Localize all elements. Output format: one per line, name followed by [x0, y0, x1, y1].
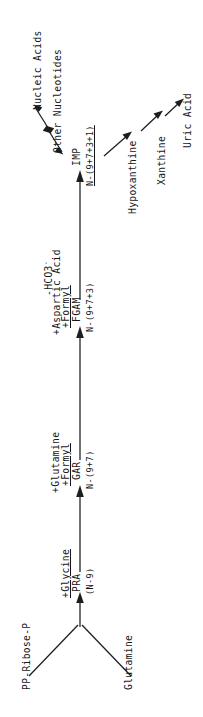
node-other-nucleotides: Other Nucleotides [53, 49, 63, 153]
node-gar-nitrogen-count: N-(9+7) [86, 450, 95, 489]
reagent-bicarbonate-charge: - [42, 261, 50, 266]
node-pp-ribose-p: PP-Ribose-P [22, 623, 32, 690]
node-pra-nitrogen-count: (N-9) [86, 567, 95, 595]
reagent-glutamine-step2: +Glutamine [51, 432, 61, 493]
arrow-pp-ribose-p-to-pra [29, 625, 78, 676]
node-fgam: FGAM [72, 297, 82, 322]
arrow-pra-to-gar [76, 485, 84, 572]
arrow-gar-to-fgam [76, 326, 84, 460]
arrow-fgam-to-imp [76, 170, 84, 300]
reagent-bicarbonate-text: -HCO3 [43, 265, 54, 296]
node-xanthine: Xanthine [157, 136, 167, 185]
node-nucleic-acids: Nucleic Acids [33, 30, 43, 110]
node-fgam-nitrogen-count: N-(9+7+3) [86, 282, 95, 332]
arrow-hypoxanthine-to-xanthine [141, 111, 163, 132]
node-hypoxanthine: Hypoxanthine [128, 140, 138, 214]
pathway-diagram-canvas: PP-Ribose-P Glutamine PRA (N-9) +Glycine… [0, 0, 203, 717]
node-glutamine: Glutamine [124, 635, 134, 690]
node-gar: GAR [72, 462, 82, 480]
node-imp-nitrogen-count: N-(9+7+3+1) [86, 125, 95, 186]
node-imp: IMP [72, 148, 82, 166]
reagent-bicarbonate: -HCO3- [43, 261, 54, 296]
arrow-to-pra-head [76, 592, 84, 627]
reagent-glycine: +Glycine [61, 549, 71, 598]
node-pra: PRA [72, 574, 82, 592]
reagent-formyl-step2: +Formyl [61, 443, 71, 486]
reagent-formyl-step3: +Formyl [61, 285, 71, 328]
node-uric-acid: Uric Acid [183, 93, 193, 148]
pathway-arrow-layer [0, 0, 203, 717]
